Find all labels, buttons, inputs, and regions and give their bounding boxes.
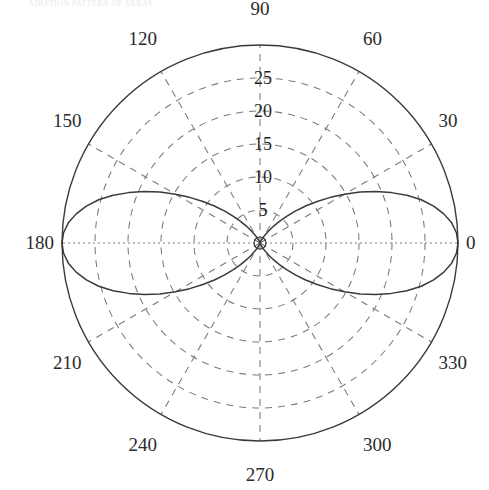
angle-tick-label-60: 60: [363, 28, 382, 49]
angle-tick-label-240: 240: [129, 434, 158, 455]
radial-tick-labels: 510152025: [254, 68, 272, 220]
grid-spoke-60: [260, 72, 359, 243]
angle-tick-label-180: 180: [26, 232, 55, 253]
polar-chart: ADIATION PATTERN OF ARRAY 510152025 0306…: [0, 0, 489, 490]
radial-tick-label-10: 10: [254, 167, 272, 187]
grid-spoke-240: [161, 243, 260, 414]
radial-tick-label-25: 25: [254, 68, 272, 88]
radial-tick-label-20: 20: [254, 101, 272, 121]
grid-spoke-300: [260, 243, 359, 414]
angle-tick-label-300: 300: [363, 434, 392, 455]
angle-tick-label-30: 30: [438, 110, 457, 131]
radial-tick-label-15: 15: [254, 134, 272, 154]
angle-tick-label-270: 270: [246, 464, 275, 485]
angle-tick-label-120: 120: [129, 28, 158, 49]
angle-tick-label-210: 210: [53, 352, 82, 373]
angle-tick-label-330: 330: [438, 352, 467, 373]
top-caption: ADIATION PATTERN OF ARRAY: [28, 0, 448, 9]
radial-tick-label-5: 5: [259, 200, 268, 220]
polar-plot-svg: 510152025 030609012015018021024027030033…: [0, 0, 489, 490]
angle-tick-label-0: 0: [466, 232, 476, 253]
angle-tick-label-150: 150: [53, 110, 82, 131]
grid-spoke-120: [161, 72, 260, 243]
